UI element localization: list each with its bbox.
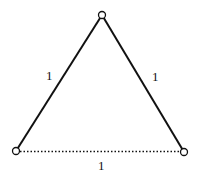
diagram-svg: 1 1 1 [0, 0, 197, 178]
edge-label-left: 1 [46, 68, 53, 83]
edge-right [102, 15, 184, 152]
vertex-bottom-left [13, 148, 20, 155]
edge-left [16, 15, 102, 151]
edge-label-right: 1 [152, 69, 159, 84]
triangle-diagram: 1 1 1 [0, 0, 197, 178]
vertex-bottom-right [181, 149, 188, 156]
edge-label-bottom: 1 [98, 158, 105, 173]
vertex-top [99, 12, 106, 19]
